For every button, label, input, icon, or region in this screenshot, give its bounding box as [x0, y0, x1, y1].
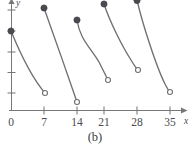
open-endpoint-4 [136, 68, 141, 73]
open-endpoint-3 [106, 78, 111, 83]
x-axis-label: x [183, 116, 189, 126]
open-endpoint-2 [75, 100, 80, 105]
curve-segment-3 [77, 20, 108, 80]
curve-segment-1 [11, 31, 45, 93]
closed-endpoint-3 [74, 17, 80, 23]
curve-segment-5 [137, 0, 170, 92]
open-endpoint-5 [168, 90, 173, 95]
figure-container: 0 7 14 21 28 35 x y (b) [0, 0, 194, 145]
x-tick-label-35: 35 [164, 116, 176, 128]
x-tick-label-14: 14 [71, 116, 83, 128]
closed-endpoint-5 [134, 0, 140, 4]
curve-segment-2 [44, 8, 77, 102]
x-tick-label-7: 7 [41, 116, 47, 128]
open-endpoint-1 [43, 91, 48, 96]
x-tick-label-28: 28 [131, 116, 143, 128]
figure-caption: (b) [88, 130, 103, 144]
piecewise-periodic-chart: 0 7 14 21 28 35 x y (b) [0, 0, 194, 145]
closed-endpoint-4 [101, 1, 107, 7]
closed-endpoint-2 [41, 5, 47, 11]
x-tick-label-21: 21 [98, 116, 110, 128]
curve-segment-4 [104, 4, 138, 70]
closed-endpoint-1 [8, 28, 14, 34]
y-axis-arrow-icon [8, 0, 14, 4]
x-tick-label-0: 0 [8, 116, 14, 128]
y-axis-label: y [15, 0, 21, 8]
x-axis-arrow-icon [181, 107, 188, 113]
